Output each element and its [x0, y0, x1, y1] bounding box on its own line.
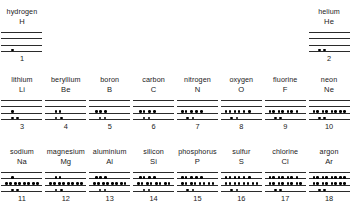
electron-dot [59, 176, 62, 179]
element-cell: siliconSi14 [132, 148, 176, 203]
electron-dot [331, 182, 334, 185]
electron-dot [316, 110, 319, 113]
electron-dot [230, 117, 233, 120]
electron-dot [278, 176, 281, 179]
element-symbol: P [195, 157, 200, 166]
electron-dot-row [1, 97, 42, 101]
electron-dot-row [309, 36, 350, 40]
electron-dot [192, 117, 195, 120]
electron-dot-row [45, 110, 86, 114]
electron-dot [323, 117, 326, 120]
electron-dot [287, 110, 290, 113]
element-row-2: lithiumLi3berylliumBe4boronB5carbonC6nit… [0, 76, 351, 131]
energy-level-line [89, 114, 130, 120]
electron-dot [272, 182, 275, 185]
electron-dot [318, 49, 321, 52]
electron-dot [199, 182, 202, 185]
energy-level-line [177, 186, 218, 192]
electron-dot [49, 182, 52, 185]
electron-dot [148, 189, 151, 192]
electron-dot [238, 176, 241, 179]
electron-dot-row [221, 97, 262, 101]
energy-level-line [1, 114, 42, 120]
electron-dot-row [1, 104, 42, 108]
electron-dot [313, 110, 316, 113]
electron-dot-row [133, 176, 174, 180]
electron-dot-row [309, 110, 350, 114]
electron-dot-row [265, 104, 306, 108]
electron-dot [236, 117, 239, 120]
element-symbol: He [324, 17, 334, 26]
electron-dot [104, 110, 107, 113]
element-cell: neonNe10 [307, 76, 351, 131]
electron-dot [115, 182, 118, 185]
electron-dot [281, 110, 284, 113]
electron-dot-row [45, 97, 86, 101]
electron-dot [331, 176, 334, 179]
electron-dot [331, 110, 334, 113]
electron-dot-row [309, 188, 350, 192]
electron-dot [97, 182, 100, 185]
energy-levels [89, 168, 130, 193]
electron-dot [234, 176, 237, 179]
electron-dot [334, 182, 337, 185]
electron-dot [313, 182, 316, 185]
electron-dot-row [89, 116, 130, 120]
electron-dot [243, 110, 246, 113]
electron-dot-row [1, 188, 42, 192]
electron-dot [185, 110, 188, 113]
electron-dot-row [45, 104, 86, 108]
energy-levels [133, 96, 174, 121]
element-cell: sulfurS16 [219, 148, 263, 203]
element-cell: oxygenO8 [219, 76, 263, 131]
electron-dot [55, 189, 58, 192]
energy-levels [1, 28, 42, 53]
element-symbol: Ar [325, 157, 333, 166]
energy-level-line [221, 186, 262, 192]
element-symbol: O [238, 85, 244, 94]
electron-dot [200, 176, 203, 179]
electron-dot-row [89, 176, 130, 180]
electron-dot-row [265, 116, 306, 120]
electron-dot-row [45, 188, 86, 192]
electron-dot-row [221, 176, 262, 180]
element-symbol: Mg [60, 157, 71, 166]
electron-dot [181, 182, 184, 185]
electron-dot [148, 176, 151, 179]
electron-dot [234, 110, 237, 113]
electron-dot [104, 117, 107, 120]
electron-dot [55, 110, 58, 113]
electron-dot [58, 182, 61, 185]
electron-dot [190, 110, 193, 113]
atomic-number: 13 [106, 194, 114, 203]
electron-dot [18, 182, 21, 185]
electron-dot-row [177, 169, 218, 173]
atomic-number: 3 [20, 122, 24, 131]
electron-dot-row [1, 110, 42, 114]
energy-levels [221, 168, 262, 193]
electron-dot-row [1, 116, 42, 120]
electron-dot-row [45, 176, 86, 180]
electron-dot [23, 182, 26, 185]
atomic-number: 17 [281, 194, 289, 203]
electron-dot [212, 182, 215, 185]
electron-dot [269, 176, 272, 179]
electron-dot [62, 182, 65, 185]
electron-dot [225, 110, 228, 113]
atomic-number: 14 [149, 194, 157, 203]
electron-dot [339, 182, 342, 185]
electron-dot-row [133, 110, 174, 114]
electron-dot [229, 110, 232, 113]
energy-level-line [309, 114, 350, 120]
electron-dot-row [221, 169, 262, 173]
element-symbol: Na [17, 157, 27, 166]
electron-dot [60, 189, 63, 192]
electron-dot-row [221, 116, 262, 120]
energy-level-line [1, 186, 42, 192]
element-symbol: Be [61, 85, 71, 94]
electron-dot [5, 182, 8, 185]
electron-dot [313, 176, 316, 179]
energy-levels [45, 168, 86, 193]
electron-dot [234, 182, 237, 185]
energy-levels [309, 168, 350, 193]
